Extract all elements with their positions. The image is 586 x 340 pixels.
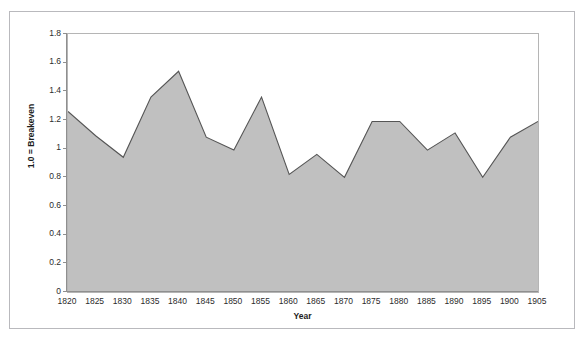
y-axis-tick-label: 0.6 [27,201,61,210]
x-axis-title: Year [67,311,538,321]
figure-root: 1.0 = Breakeven 00.20.40.60.811.21.41.61… [0,0,586,340]
y-axis-tick-mark [63,291,66,292]
y-axis-tick-label: 0.2 [27,258,61,267]
y-axis-tick-mark [63,90,66,91]
y-axis-tick-mark [63,234,66,235]
y-axis-tick-mark [63,119,66,120]
y-axis-tick-label: 1.8 [27,29,61,38]
y-axis-tick-mark [63,33,66,34]
y-axis-title: 1.0 = Breakeven [26,91,36,181]
y-axis-tick-label: 0.8 [27,172,61,181]
y-axis-tick-mark [63,205,66,206]
y-axis-tick-label: 1.6 [27,57,61,66]
y-axis-tick-mark [63,262,66,263]
x-axis-line [67,291,538,292]
y-axis-tick-mark [63,148,66,149]
y-axis-tick-mark [63,62,66,63]
chart-plot-svg [68,34,538,292]
area-chart: 1.0 = Breakeven 00.20.40.60.811.21.41.61… [9,11,575,329]
y-axis-tick-label: 1.4 [27,86,61,95]
y-axis-tick-mark [63,176,66,177]
cropped-page-text-fragment [68,0,328,3]
plot-area [67,33,539,293]
series-area-fill [68,71,538,292]
y-axis-tick-label: 1 [27,143,61,152]
y-axis-line [66,33,67,292]
y-axis-tick-label: 1.2 [27,115,61,124]
y-axis-tick-label: 0 [27,287,61,296]
x-axis-tick-label: 1905 [517,296,557,306]
y-axis-tick-label: 0.4 [27,229,61,238]
